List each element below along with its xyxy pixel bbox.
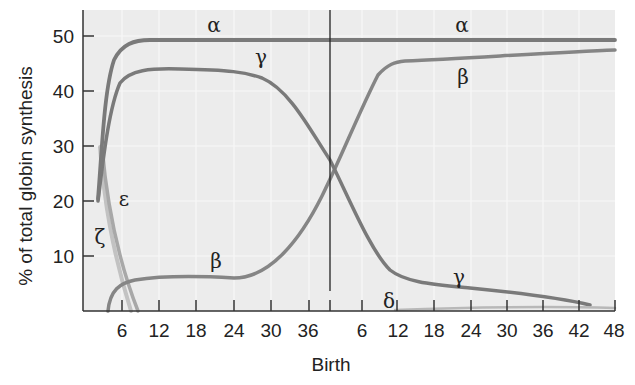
label-alpha-postnatal: α	[455, 13, 469, 37]
label-beta-prenatal: β	[210, 249, 222, 273]
label-delta: δ	[383, 289, 395, 313]
y-tick-20: 20	[53, 191, 74, 212]
x-tick-pre-24: 24	[223, 320, 245, 341]
x-tick-post-18: 18	[423, 320, 444, 341]
x-tick-pre-12: 12	[148, 320, 169, 341]
y-tick-10: 10	[53, 246, 74, 267]
y-tick-50: 50	[53, 26, 74, 47]
x-axis-title: Birth	[311, 354, 350, 375]
x-tick-post-36: 36	[532, 320, 553, 341]
x-tick-post-42: 42	[568, 320, 589, 341]
label-gamma-postnatal: γ	[453, 265, 465, 289]
x-tick-post-6: 6	[357, 320, 368, 341]
x-tick-pre-30: 30	[260, 320, 281, 341]
x-tick-post-30: 30	[496, 320, 517, 341]
x-tick-post-12: 12	[387, 320, 408, 341]
y-tick-labels: 50 40 30 20 10	[53, 26, 74, 267]
label-zeta: ζ	[95, 225, 106, 249]
x-tick-pre-36: 36	[297, 320, 318, 341]
y-axis-title: % of total globin synthesis	[15, 66, 36, 286]
x-tick-labels: 6 12 18 24 30 36 6 12 18 24 30 36 42 48	[117, 320, 625, 341]
y-tick-40: 40	[53, 81, 74, 102]
y-tick-30: 30	[53, 136, 74, 157]
globin-synthesis-chart: 50 40 30 20 10 6 12 18 24 30 36 6 12 18 …	[0, 0, 635, 385]
x-tick-pre-6: 6	[117, 320, 128, 341]
x-tick-pre-18: 18	[185, 320, 206, 341]
x-tick-post-24: 24	[460, 320, 482, 341]
label-alpha-prenatal: α	[207, 13, 221, 37]
label-gamma-prenatal: γ	[255, 45, 267, 69]
label-beta-postnatal: β	[457, 65, 469, 89]
label-epsilon: ε	[119, 187, 129, 211]
x-tick-post-48: 48	[603, 320, 624, 341]
